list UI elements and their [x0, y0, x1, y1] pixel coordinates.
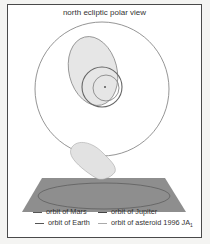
asteroid-orbit-top [61, 31, 125, 111]
oblique-view [22, 142, 186, 212]
legend-item-earth: orbit of Earth [35, 218, 90, 227]
jupiter-line-swatch [98, 212, 107, 213]
asteroid-orbit-oblique [71, 142, 116, 179]
asteroid-line-swatch [98, 223, 107, 224]
legend-item-asteroid: orbit of asteroid 1996 JA1 [98, 218, 193, 228]
legend-item-mars: orbit of Mars [33, 207, 87, 216]
earth-line-swatch [35, 223, 44, 224]
polar-view [35, 22, 169, 156]
sun-icon [104, 86, 106, 88]
mars-line-swatch [33, 212, 42, 213]
legend-item-jupiter: orbit of Jupiter [98, 207, 157, 216]
